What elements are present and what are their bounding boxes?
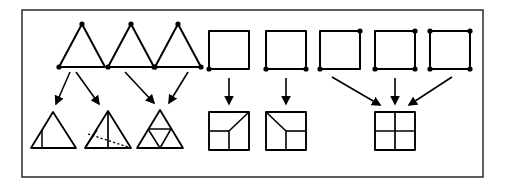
subdivision-line — [160, 129, 171, 148]
square-bottom-1 — [209, 112, 249, 150]
vertex-dot — [412, 66, 417, 71]
square-top-2 — [263, 31, 308, 72]
triangle-group — [31, 21, 204, 148]
triangle-top-3 — [152, 21, 203, 69]
refinement-arrow — [409, 77, 452, 105]
refinement-diagram — [0, 0, 505, 191]
subdivision-line — [85, 130, 97, 148]
square-bottom-2 — [266, 112, 306, 150]
vertex-dot — [175, 21, 180, 26]
refinement-arrow — [169, 72, 188, 103]
refinement-arrow — [332, 77, 380, 105]
subdivision-diagonal — [229, 112, 249, 131]
vertex-dot — [467, 66, 472, 71]
vertex-dot — [303, 66, 308, 71]
vertex-dot — [105, 64, 110, 69]
subdivision-line — [148, 129, 160, 148]
vertex-dot — [427, 28, 432, 33]
vertex-dot — [206, 66, 211, 71]
vertex-dot — [263, 66, 268, 71]
vertex-dot — [79, 21, 84, 26]
triangle-bottom-3 — [137, 110, 183, 148]
vertex-dot — [357, 28, 362, 33]
refinement-arrow — [76, 72, 99, 104]
triangle-top-2 — [105, 21, 156, 69]
vertex-dot — [317, 66, 322, 71]
triangle-top-1 — [56, 21, 105, 69]
refinement-arrow — [125, 72, 154, 103]
vertex-dot — [412, 28, 417, 33]
triangle-bottom-1 — [31, 112, 76, 148]
square-bottom-3 — [375, 112, 415, 150]
figure-container — [0, 0, 505, 191]
refinement-arrow — [56, 72, 70, 104]
vertex-dot — [467, 28, 472, 33]
vertex-dot — [372, 66, 377, 71]
subdivision-diagonal — [266, 112, 286, 131]
vertex-dot — [198, 64, 203, 69]
vertex-dot — [128, 21, 133, 26]
vertex-dot — [152, 64, 157, 69]
square-top-4 — [372, 28, 417, 71]
square-top-3 — [317, 28, 362, 71]
square-pair-group — [206, 31, 308, 150]
triangle-bottom-2 — [85, 111, 131, 148]
square-top-5 — [427, 28, 472, 71]
square-top-1 — [206, 31, 249, 72]
vertex-dot — [56, 64, 61, 69]
vertex-dot — [427, 66, 432, 71]
square-converge-group — [317, 28, 472, 150]
